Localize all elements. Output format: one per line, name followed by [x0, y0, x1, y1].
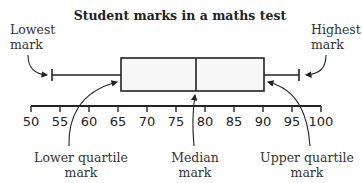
tick-label: 100	[309, 114, 334, 129]
arrow-lowest	[28, 55, 47, 75]
tick-label: 85	[226, 114, 243, 129]
arrow-median	[193, 95, 195, 146]
tick-label: 60	[81, 114, 98, 129]
tick-label: 90	[255, 114, 272, 129]
tick-label: 80	[197, 114, 214, 129]
axis-tick-labels: 50 55 60 65 70 75 80 85 90 95 100	[23, 114, 334, 129]
arrow-highest	[306, 55, 326, 75]
interquartile-box	[121, 58, 264, 91]
tick-label: 70	[139, 114, 156, 129]
tick-label: 75	[168, 114, 185, 129]
tick-label: 50	[23, 114, 40, 129]
tick-label: 55	[52, 114, 69, 129]
tick-label: 65	[110, 114, 127, 129]
tick-label: 95	[284, 114, 301, 129]
